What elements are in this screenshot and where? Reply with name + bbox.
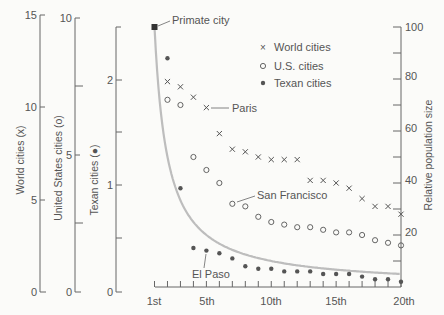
elpaso-leader — [204, 254, 206, 268]
texan-city-point — [360, 274, 364, 278]
x-tick-15th: 15th — [325, 295, 346, 307]
texan-city-point — [399, 280, 403, 284]
world-city-point — [385, 204, 390, 209]
right-tick-100: 100 — [405, 21, 423, 33]
legend-world-cities: World cities — [274, 41, 331, 53]
world-city-point — [217, 131, 222, 136]
world-tick-15: 15 — [25, 9, 37, 21]
san-francisco-label: San Francisco — [257, 189, 327, 201]
world-city-point — [269, 157, 274, 162]
us-city-point — [295, 225, 300, 230]
texan-city-point — [386, 277, 390, 281]
world-cities-axis — [40, 15, 46, 292]
world-city-point — [295, 157, 300, 162]
legend-dot-marker-icon — [261, 81, 265, 85]
legend-us-cities: U.S. cities — [274, 60, 324, 72]
texan-city-point — [256, 267, 260, 271]
x-tick-20th: 20th — [393, 295, 414, 307]
us-tick-5: 5 — [66, 149, 72, 161]
us-city-point — [347, 230, 352, 235]
world-city-point — [347, 186, 352, 191]
world-cities-axis-label: World cities (x) — [14, 125, 26, 194]
relative-population-label: Relative population size — [422, 99, 434, 210]
texan-city-point — [334, 272, 338, 276]
x-tick-10th: 10th — [260, 295, 281, 307]
us-city-point — [308, 225, 313, 230]
us-city-point — [165, 97, 170, 102]
world-city-point — [359, 196, 364, 201]
us-city-point — [243, 204, 248, 209]
texan-cities-axis-label: Texan cities (●) — [88, 144, 100, 215]
world-tick-10: 10 — [25, 101, 37, 113]
us-cities-axis — [75, 18, 83, 292]
paris-label: Paris — [232, 102, 258, 114]
us-city-point — [269, 219, 274, 224]
us-tick-0: 0 — [66, 286, 72, 298]
sf-leader — [237, 196, 255, 202]
world-city-point — [191, 95, 196, 100]
primate-city-marker — [152, 24, 158, 30]
texan-tick-1: 1 — [107, 179, 113, 191]
right-tick-60: 60 — [405, 122, 417, 134]
us-city-point — [359, 232, 364, 237]
legend-texan-cities: Texan cities — [274, 77, 332, 89]
legend: × World cities U.S. cities Texan cities — [260, 41, 332, 89]
world-city-point — [230, 147, 235, 152]
rank-x-axis — [155, 281, 402, 287]
texan-city-point — [204, 248, 208, 252]
world-city-point — [334, 180, 339, 185]
us-city-point — [217, 180, 222, 185]
us-city-point — [282, 222, 287, 227]
world-city-point — [243, 149, 248, 154]
texan-city-point — [191, 246, 195, 250]
world-city-point — [256, 154, 261, 159]
us-city-point — [321, 227, 326, 232]
texan-city-point — [269, 267, 273, 271]
world-city-point — [204, 105, 209, 110]
us-city-point — [372, 238, 377, 243]
texan-city-point — [243, 264, 247, 268]
primate-city-label: Primate city — [172, 14, 230, 26]
right-tick-80: 80 — [405, 70, 417, 82]
world-city-point — [178, 84, 183, 89]
rank-size-chart: 15 10 5 0 World cities (x) 10 5 0 United… — [0, 0, 444, 315]
us-city-point — [334, 230, 339, 235]
us-city-point — [178, 102, 183, 107]
x-tick-1st: 1st — [147, 295, 162, 307]
texan-city-point — [282, 269, 286, 273]
texan-city-point — [308, 269, 312, 273]
world-tick-5: 5 — [31, 194, 37, 206]
us-city-point — [256, 214, 261, 219]
texan-city-point — [217, 251, 221, 255]
el-paso-label: El Paso — [192, 268, 230, 280]
texan-cities-axis — [116, 27, 122, 292]
texan-tick-0: 0 — [107, 286, 113, 298]
texan-city-point — [347, 272, 351, 276]
x-tick-5th: 5th — [199, 295, 214, 307]
us-city-point — [191, 154, 196, 159]
world-city-point — [321, 178, 326, 183]
texan-city-point — [295, 269, 299, 273]
texan-city-point — [178, 186, 182, 190]
texan-tick-2: 2 — [107, 74, 113, 86]
world-city-point — [165, 79, 170, 84]
texan-city-point — [165, 56, 169, 60]
right-tick-40: 40 — [405, 174, 417, 186]
legend-x-marker-icon: × — [260, 42, 266, 53]
world-tick-0: 0 — [31, 286, 37, 298]
legend-circle-marker-icon — [260, 63, 265, 68]
us-city-point — [385, 240, 390, 245]
texan-city-point — [321, 272, 325, 276]
us-city-point — [204, 167, 209, 172]
primate-leader — [158, 21, 170, 26]
world-city-point — [282, 157, 287, 162]
right-tick-20: 20 — [405, 226, 417, 238]
world-city-point — [372, 204, 377, 209]
texan-city-point — [230, 256, 234, 260]
us-tick-10: 10 — [60, 12, 72, 24]
us-city-point — [230, 201, 235, 206]
texan-city-point — [373, 277, 377, 281]
us-cities-axis-label: United States cities (o) — [52, 115, 64, 221]
world-city-point — [308, 178, 313, 183]
